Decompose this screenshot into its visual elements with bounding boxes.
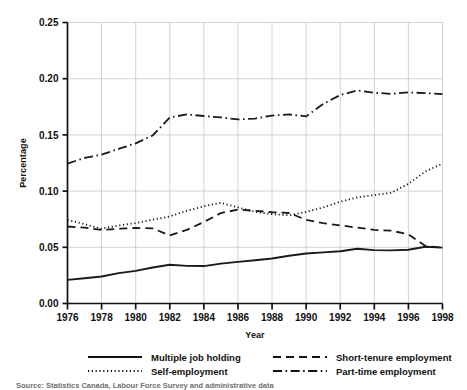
x-tick-label: 1990 bbox=[295, 312, 318, 323]
legend-label-1: Short-tenure employment bbox=[336, 352, 452, 363]
line-chart: 0.000.050.100.150.200.251976197819801982… bbox=[0, 0, 467, 390]
y-axis-title: Percentage bbox=[18, 138, 28, 188]
series-line-1 bbox=[68, 164, 443, 229]
y-tick-label: 0.10 bbox=[39, 186, 59, 197]
plot-frame bbox=[68, 23, 443, 304]
series-line-2 bbox=[68, 210, 443, 248]
x-tick-label: 1994 bbox=[363, 312, 386, 323]
chart-figure: 0.000.050.100.150.200.251976197819801982… bbox=[0, 0, 467, 390]
series-line-3 bbox=[68, 91, 443, 164]
x-tick-label: 1980 bbox=[125, 312, 148, 323]
legend-label-2: Self-employment bbox=[151, 366, 228, 377]
x-tick-label: 1992 bbox=[329, 312, 352, 323]
grid-lines bbox=[68, 23, 443, 304]
chart-legend: Multiple job holdingShort-tenure employm… bbox=[88, 352, 452, 377]
data-series-group bbox=[68, 91, 443, 280]
y-tick-label: 0.05 bbox=[39, 242, 59, 253]
x-tick-label: 1978 bbox=[90, 312, 113, 323]
axis-ticks bbox=[63, 23, 443, 310]
x-tick-label: 1986 bbox=[227, 312, 250, 323]
x-tick-label: 1988 bbox=[261, 312, 284, 323]
source-note: Source: Statistics Canada, Labour Force … bbox=[16, 381, 274, 390]
x-tick-label: 1976 bbox=[56, 312, 79, 323]
series-line-0 bbox=[68, 247, 443, 280]
y-tick-label: 0.15 bbox=[39, 130, 59, 141]
legend-label-0: Multiple job holding bbox=[151, 352, 241, 363]
x-tick-label: 1982 bbox=[159, 312, 182, 323]
y-tick-label: 0.20 bbox=[39, 73, 59, 84]
x-tick-label: 1984 bbox=[193, 312, 216, 323]
x-tick-label: 1996 bbox=[397, 312, 420, 323]
axis-titles: YearPercentage bbox=[18, 138, 265, 339]
x-tick-label: 1998 bbox=[431, 312, 454, 323]
x-axis-title: Year bbox=[245, 330, 265, 340]
y-tick-label: 0.00 bbox=[39, 298, 59, 309]
legend-label-3: Part-time employment bbox=[336, 366, 437, 377]
y-tick-label: 0.25 bbox=[39, 17, 59, 28]
